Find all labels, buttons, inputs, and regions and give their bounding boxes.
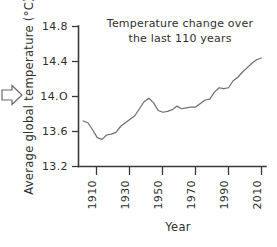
chart-title-line-2: the last 110 years	[128, 32, 231, 45]
chart-title-line-1: Temperature change over	[106, 17, 254, 30]
x-axis-ticks	[97, 167, 262, 176]
y-tick-label: 13.6	[42, 125, 68, 138]
y-tick-label: 13.2	[42, 160, 68, 173]
x-tick-label: 2010	[251, 180, 264, 210]
x-tick-label: 1930	[119, 180, 132, 210]
temperature-line-chart: 14.8 14.4 14.O 13.6 13.2 1910 1930 1950 …	[0, 0, 277, 247]
x-axis-tick-labels: 1910 1930 1950 1970 1990 2010	[86, 180, 264, 210]
x-axis-title: Year	[164, 220, 191, 234]
y-axis-title: Average global temperature (°C)	[22, 0, 36, 195]
y-tick-label: 14.O	[40, 90, 68, 103]
chart-figure: 14.8 14.4 14.O 13.6 13.2 1910 1930 1950 …	[0, 0, 277, 247]
x-tick-label: 1990	[218, 180, 231, 210]
temperature-series-line	[83, 58, 261, 139]
y-tick-label: 14.4	[42, 55, 68, 68]
y-axis-ticks	[72, 27, 79, 167]
y-tick-label: 14.8	[42, 20, 68, 33]
y-axis-tick-labels: 14.8 14.4 14.O 13.6 13.2	[40, 20, 68, 173]
x-tick-label: 1950	[152, 180, 165, 210]
x-tick-label: 1970	[185, 180, 198, 210]
x-tick-label: 1910	[86, 180, 99, 210]
right-arrow-outline-icon	[2, 86, 22, 105]
